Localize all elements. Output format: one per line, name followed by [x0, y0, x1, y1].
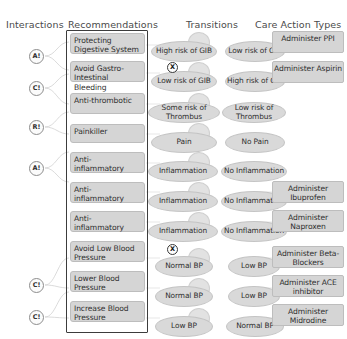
- transition-from-label: Inflammation: [159, 167, 207, 176]
- care-action-label: Administer Aspirin: [274, 64, 342, 73]
- header-transitions: Transitions: [186, 19, 238, 30]
- transition-to-state[interactable]: No Pain: [225, 132, 285, 153]
- recommendation-label: Painkiller: [74, 127, 107, 136]
- recommendation-label: Anti-thrombotic: [74, 96, 132, 105]
- transition-from-label: Some risk of Thrombus: [149, 104, 219, 121]
- recommendation-label: Avoid Low Blood Pressure: [74, 244, 135, 262]
- interaction-badge-alert[interactable]: A!: [29, 161, 44, 176]
- recommendation-item[interactable]: Avoid Low Blood Pressure: [70, 241, 145, 262]
- recommendation-label: Protecting Digestive System: [74, 36, 139, 54]
- recommendation-label: Anti-inflammatory: [74, 214, 124, 232]
- care-action-label: Administer Naproxen: [288, 213, 328, 231]
- transition-from-state[interactable]: Low BP: [155, 316, 213, 337]
- recommendation-item[interactable]: Painkiller: [70, 124, 145, 143]
- care-action-item[interactable]: Administer Beta-Blockers: [272, 246, 344, 268]
- header-interactions: Interactions: [6, 19, 64, 30]
- interaction-badge-label: C!: [33, 282, 41, 289]
- header-recommendations: Recommendations: [68, 19, 158, 30]
- transition-from-state[interactable]: Normal BP: [155, 256, 213, 277]
- recommendation-label: Increase Blood Pressure: [74, 304, 129, 322]
- transition-from-label: Normal BP: [165, 292, 203, 301]
- interaction-badge-label: C!: [33, 85, 41, 92]
- interaction-badge-contraindication[interactable]: C!: [29, 278, 44, 293]
- transition-to-label: No Inflammation: [224, 167, 284, 176]
- care-action-label: Administer Midrodine: [288, 307, 328, 325]
- conflict-x-label: X: [170, 246, 175, 253]
- diagram-canvas: Interactions Recommendations Transitions…: [0, 0, 347, 339]
- care-action-label: Administer Beta-Blockers: [277, 249, 339, 267]
- interaction-badge-label: C!: [33, 314, 41, 321]
- transition-from-label: Inflammation: [159, 197, 207, 206]
- transition-to-label: Low BP: [241, 292, 267, 301]
- transition-to-label: Low BP: [241, 262, 267, 271]
- transition-to-state[interactable]: No Inflammation: [221, 161, 287, 182]
- recommendation-item[interactable]: Lower Blood Pressure: [70, 271, 145, 292]
- recommendation-item[interactable]: Avoid Gastro-Intestinal Bleeding: [70, 61, 145, 82]
- recommendation-item[interactable]: Anti-inflammatory: [70, 211, 145, 232]
- conflict-x-label: X: [170, 64, 175, 71]
- care-action-item[interactable]: Administer Midrodine: [272, 304, 344, 326]
- transition-from-state[interactable]: Pain: [151, 132, 217, 153]
- recommendation-item[interactable]: Anti-inflammatory: [70, 152, 145, 173]
- recommendation-label: Lower Blood Pressure: [74, 274, 120, 292]
- transition-from-label: Low BP: [171, 322, 197, 331]
- interaction-badge-label: R!: [33, 124, 41, 131]
- interaction-badge-label: A!: [33, 53, 41, 60]
- recommendation-item[interactable]: Increase Blood Pressure: [70, 301, 145, 322]
- transition-from-label: Pain: [177, 138, 192, 147]
- care-action-label: Administer PPI: [281, 34, 334, 43]
- transition-from-state[interactable]: Inflammation: [148, 191, 218, 212]
- interaction-badge-repetition[interactable]: R!: [29, 120, 44, 135]
- header-care-action-types: Care Action Types: [255, 19, 341, 30]
- recommendation-label: Anti-inflammatory: [74, 155, 124, 173]
- interaction-badge-alert[interactable]: A!: [29, 49, 44, 64]
- interaction-badge-contraindication[interactable]: C!: [29, 81, 44, 96]
- transition-from-label: High risk of GIB: [156, 47, 212, 56]
- transition-from-state[interactable]: Inflammation: [148, 161, 218, 182]
- care-action-item[interactable]: Administer PPI: [272, 31, 344, 53]
- transition-from-state[interactable]: Normal BP: [155, 286, 213, 307]
- recommendation-item[interactable]: Protecting Digestive System: [70, 33, 145, 54]
- transition-to-label: Low risk of Thrombus: [223, 104, 285, 121]
- care-action-item[interactable]: Administer Aspirin: [272, 61, 344, 83]
- recommendation-item[interactable]: Anti-inflammatory: [70, 182, 145, 203]
- interaction-badge-label: A!: [33, 165, 41, 172]
- recommendation-item[interactable]: Anti-thrombotic: [70, 93, 145, 114]
- conflict-x-icon[interactable]: X: [167, 62, 178, 73]
- transition-from-state[interactable]: Low risk of GIB: [151, 71, 217, 92]
- transition-from-label: Inflammation: [159, 227, 207, 236]
- care-action-item[interactable]: Administer Ibuprofen: [272, 181, 344, 203]
- care-action-label: Administer ACE inhibitor: [279, 278, 336, 296]
- transition-from-state[interactable]: Some risk of Thrombus: [148, 102, 220, 123]
- transition-from-state[interactable]: High risk of GIB: [151, 41, 217, 62]
- transition-to-label: No Pain: [241, 138, 268, 147]
- transition-from-state[interactable]: Inflammation: [148, 221, 218, 242]
- care-action-label: Administer Ibuprofen: [288, 184, 328, 202]
- conflict-x-icon[interactable]: X: [167, 244, 178, 255]
- care-action-item[interactable]: Administer ACE inhibitor: [272, 275, 344, 297]
- recommendation-label: Anti-inflammatory: [74, 185, 124, 203]
- transition-from-label: Normal BP: [165, 262, 203, 271]
- care-action-item[interactable]: Administer Naproxen: [272, 210, 344, 232]
- transition-to-label: Normal BP: [236, 322, 274, 331]
- interaction-badge-contraindication[interactable]: C!: [29, 310, 44, 325]
- transition-from-label: Low risk of GIB: [157, 77, 210, 86]
- transition-to-state[interactable]: Low risk of Thrombus: [222, 102, 286, 123]
